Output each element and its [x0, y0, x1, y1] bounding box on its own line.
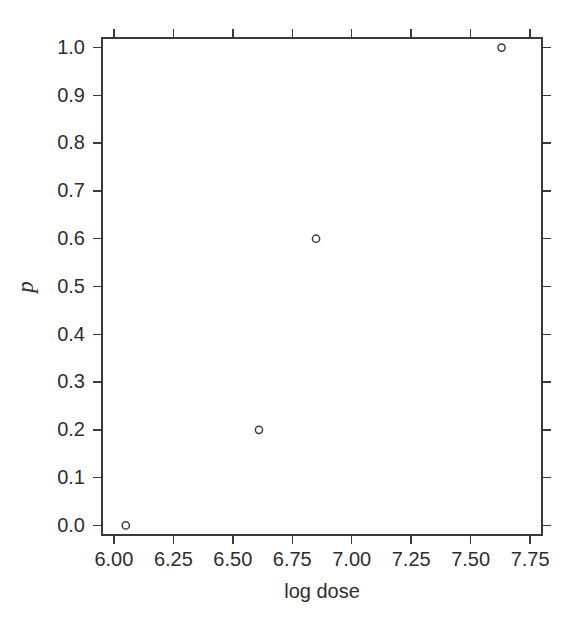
y-tick-label: 1.0 [57, 36, 85, 58]
x-tick-label: 7.75 [511, 548, 550, 570]
data-point-marker [312, 235, 319, 242]
x-tick-label: 7.25 [392, 548, 431, 570]
y-axis-ticks-left [93, 48, 102, 526]
x-tick-label: 6.25 [154, 548, 193, 570]
y-tick-label: 0.2 [57, 418, 85, 440]
data-point-marker [498, 44, 505, 51]
y-tick-label: 0.9 [57, 84, 85, 106]
y-tick-label: 0.3 [57, 370, 85, 392]
y-tick-label: 0.1 [57, 466, 85, 488]
y-axis-tick-labels: 0.00.10.20.30.40.50.60.70.80.91.0 [57, 36, 85, 536]
x-tick-label: 6.75 [273, 548, 312, 570]
y-tick-label: 0.4 [57, 323, 85, 345]
x-tick-label: 6.50 [213, 548, 252, 570]
y-axis-title: p [13, 281, 38, 295]
x-tick-label: 7.50 [451, 548, 490, 570]
y-tick-label: 0.6 [57, 227, 85, 249]
plot-canvas: 0.00.10.20.30.40.50.60.70.80.91.0 6.006.… [0, 0, 582, 633]
data-point-marker [255, 426, 262, 433]
x-tick-label: 6.00 [94, 548, 133, 570]
scatter-plot-figure: 0.00.10.20.30.40.50.60.70.80.91.0 6.006.… [0, 0, 582, 633]
y-tick-label: 0.0 [57, 514, 85, 536]
y-tick-label: 0.5 [57, 275, 85, 297]
x-tick-label: 7.00 [332, 548, 371, 570]
y-tick-label: 0.7 [57, 179, 85, 201]
y-axis-ticks-right [542, 48, 551, 526]
x-axis-ticks-top [114, 29, 530, 38]
x-axis-tick-labels: 6.006.256.506.757.007.257.507.75 [94, 548, 549, 570]
data-point-marker [122, 522, 129, 529]
x-axis-ticks-bottom [114, 535, 530, 544]
x-axis-title: log dose [284, 580, 360, 602]
y-tick-label: 0.8 [57, 131, 85, 153]
plot-frame-box [102, 38, 542, 535]
data-point-series [122, 44, 505, 529]
